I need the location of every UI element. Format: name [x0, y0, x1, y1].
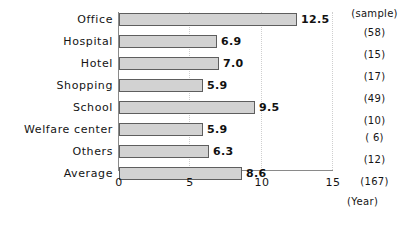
- category-label-others: Others: [0, 145, 113, 159]
- sample-value-shopping: (49): [336, 92, 413, 105]
- bar-shopping: [119, 79, 203, 92]
- sample-value-school: (10): [336, 114, 413, 127]
- bar-chart: Office Hospital Hotel Shopping School We…: [0, 0, 413, 227]
- bar-value-office: 12.5: [301, 13, 329, 26]
- bar-welfare-center: [119, 123, 203, 136]
- sample-value-welfare-center: ( 6): [336, 131, 413, 144]
- category-label-school: School: [0, 101, 113, 115]
- sample-value-office: (58): [336, 26, 413, 39]
- sample-value-hospital: (15): [336, 48, 413, 61]
- bar-school: [119, 101, 255, 114]
- bar-others: [119, 145, 209, 158]
- x-tick-5: 5: [186, 176, 194, 189]
- bar-hospital: [119, 35, 217, 48]
- category-label-shopping: Shopping: [0, 79, 113, 93]
- sample-value-hotel: (17): [336, 70, 413, 83]
- bar-hotel: [119, 57, 219, 70]
- category-label-average: Average: [0, 167, 113, 181]
- bar-value-shopping: 5.9: [207, 79, 227, 92]
- category-axis-labels: Office Hospital Hotel Shopping School We…: [0, 13, 113, 170]
- category-label-office: Office: [0, 13, 113, 27]
- x-tick-10: 10: [255, 176, 270, 189]
- bar-value-hospital: 6.9: [221, 35, 241, 48]
- x-tick-0: 0: [115, 176, 123, 189]
- bar-average: [119, 167, 242, 180]
- x-axis-unit-label: (Year): [347, 195, 378, 208]
- category-label-welfare-center: Welfare center: [0, 123, 113, 137]
- category-label-hospital: Hospital: [0, 35, 113, 49]
- sample-column-header: (sample): [336, 8, 413, 20]
- bar-value-school: 9.5: [259, 101, 279, 114]
- sample-value-others: (12): [336, 153, 413, 166]
- gridline-10: [261, 12, 263, 170]
- bar-value-welfare-center: 5.9: [207, 123, 227, 136]
- gridline-15: [332, 12, 334, 170]
- category-label-hotel: Hotel: [0, 57, 113, 71]
- sample-value-average: (167): [336, 175, 413, 188]
- bar-value-others: 6.3: [213, 145, 233, 158]
- plot-area: 12.5 6.9 7.0 5.9 9.5 5.9 6.3 8.6: [118, 12, 333, 171]
- bar-office: [119, 13, 297, 26]
- bar-value-hotel: 7.0: [223, 57, 243, 70]
